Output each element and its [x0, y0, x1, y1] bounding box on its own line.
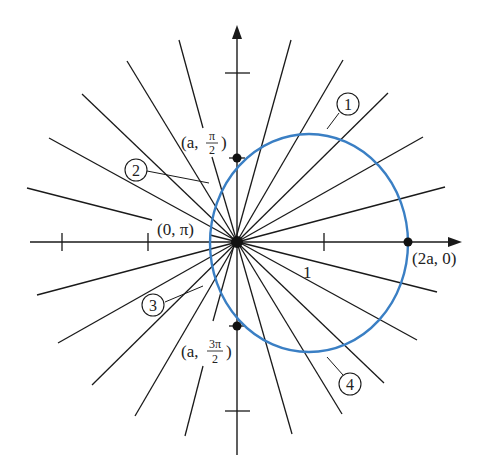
label-a-3pi2-den: 2	[212, 352, 218, 366]
origin-hub	[231, 236, 243, 248]
label-a-pi2-close: )	[221, 133, 227, 152]
ray-105-tail	[179, 40, 203, 128]
y-axis-arrow-icon	[232, 25, 242, 39]
ray-285	[237, 242, 292, 434]
callout-3-number: 3	[149, 297, 157, 314]
label-a-3pi2: (a, 3π 2 )	[181, 337, 232, 366]
callout-1-leader	[327, 113, 339, 129]
callout-2: 2	[125, 159, 209, 183]
ray-75	[213, 40, 291, 321]
label-a-pi2-den: 2	[209, 143, 215, 157]
point-2a-0	[404, 238, 413, 247]
polar-diagram: (a, π 2 ) (0, π) (2a, 0) (a, 3π 2 ) 1 1 …	[0, 0, 494, 465]
callout-2-leader	[147, 171, 209, 183]
callout-2-number: 2	[132, 162, 140, 179]
point-a-3pi2	[233, 322, 242, 331]
label-a-3pi2-close: )	[226, 342, 232, 361]
label-a-pi2: (a, π 2 )	[181, 129, 227, 157]
label-a-pi2-r: (a,	[181, 133, 198, 152]
callout-4-number: 4	[346, 376, 354, 393]
callout-1-number: 1	[344, 96, 352, 113]
callout-1: 1	[327, 93, 359, 129]
callout-4-leader	[327, 357, 343, 375]
unit-label: 1	[303, 263, 312, 282]
callout-3-leader	[165, 286, 203, 302]
ray-165-tail	[27, 188, 152, 220]
label-a-pi2-num: π	[209, 129, 215, 143]
label-2a-0: (2a, 0)	[412, 249, 456, 268]
ray-255-tail	[185, 366, 203, 436]
point-a-pi2	[233, 154, 242, 163]
callout-4: 4	[327, 357, 361, 395]
label-a-3pi2-r: (a,	[181, 342, 198, 361]
label-origin-pi: (0, π)	[157, 220, 194, 239]
x-axis-arrow-icon	[448, 237, 462, 247]
label-a-3pi2-num: 3π	[209, 337, 221, 351]
